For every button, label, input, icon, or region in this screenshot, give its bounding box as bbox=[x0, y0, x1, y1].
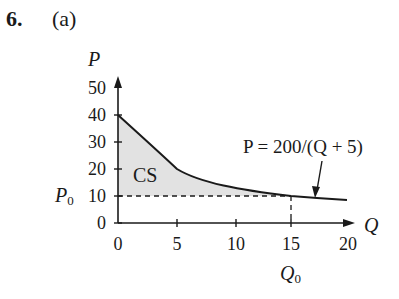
x-tick-5: 5 bbox=[173, 234, 182, 254]
p0-label: P0 bbox=[54, 184, 74, 208]
q0-label: Q0 bbox=[280, 262, 301, 286]
equation-label: P = 200/(Q + 5) bbox=[243, 136, 363, 158]
annotation-arrow-line bbox=[317, 161, 322, 190]
cs-label: CS bbox=[133, 164, 157, 186]
x-axis-arrow-icon bbox=[343, 219, 355, 227]
x-tick-15: 15 bbox=[282, 234, 300, 254]
consumer-surplus-chart: 50 40 30 20 10 0 0 5 10 15 20 P Q P0 Q0 … bbox=[0, 0, 399, 299]
x-tick-20: 20 bbox=[339, 234, 357, 254]
y-tick-30: 30 bbox=[88, 132, 106, 152]
y-tick-50: 50 bbox=[88, 78, 106, 98]
y-tick-10: 10 bbox=[88, 186, 106, 206]
y-tick-20: 20 bbox=[88, 159, 106, 179]
x-tick-10: 10 bbox=[227, 234, 245, 254]
x-axis-label: Q bbox=[364, 214, 379, 236]
y-tick-0: 0 bbox=[97, 213, 106, 233]
y-axis-label: P bbox=[87, 48, 100, 70]
y-tick-40: 40 bbox=[88, 105, 106, 125]
y-axis-arrow-icon bbox=[114, 76, 122, 88]
x-tick-0: 0 bbox=[114, 234, 123, 254]
annotation-arrowhead-icon bbox=[312, 186, 320, 198]
